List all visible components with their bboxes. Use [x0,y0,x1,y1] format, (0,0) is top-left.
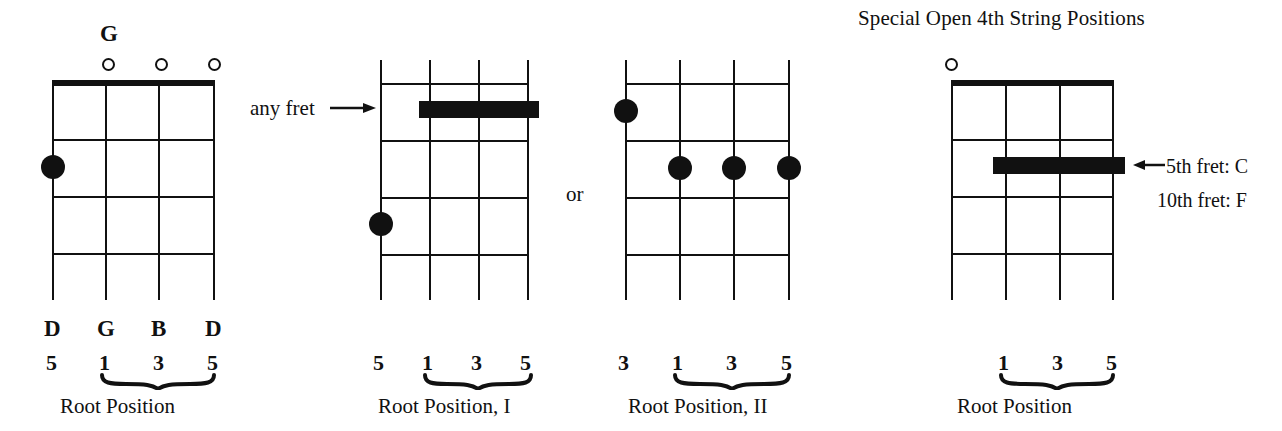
degree-label-string-2: 1 [998,352,1009,374]
barre [993,157,1125,174]
string-1 [951,80,953,300]
degree-label-string-4: 5 [1106,352,1117,374]
chord-diagram-special-open-4th: 1 3 5 Root Position 5th fret: C 10th fre… [0,0,1282,431]
degree-label-string-3: 3 [1052,352,1063,374]
string-3 [1059,80,1061,300]
fret-line-1 [951,139,1114,141]
nut [951,80,1114,86]
chord-chart-figure: Special Open 4th String Positions G D G … [0,0,1282,431]
open-string-ring-icon [945,58,958,71]
fret5-label: 5th fret: C [1166,156,1248,176]
fret-line-3 [951,253,1114,255]
string-4 [1112,80,1114,300]
string-2 [1005,80,1007,300]
fret10-label: 10th fret: F [1157,190,1247,210]
degree-brace [999,372,1117,390]
fret-annotation-arrow-icon [1133,157,1167,173]
diagram-caption: Root Position [957,396,1072,417]
fret-line-2 [951,196,1114,198]
